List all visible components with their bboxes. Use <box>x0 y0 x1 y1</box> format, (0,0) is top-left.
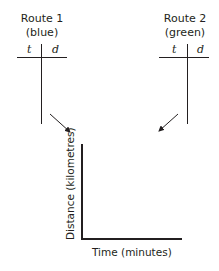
x-axis-label: Time (minutes) <box>92 246 172 258</box>
y-axis <box>81 144 83 239</box>
route2-arrow-icon <box>159 114 178 131</box>
x-axis <box>81 238 182 240</box>
distance-time-graph: Time (minutes) Distance (kilometres) <box>62 140 212 265</box>
y-axis-label: Distance (kilometres) <box>64 127 76 240</box>
